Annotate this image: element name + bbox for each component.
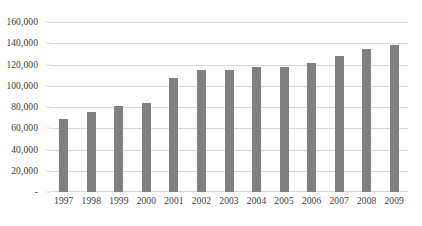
y-axis: -20,00040,00060,00080,000100,000120,0001… xyxy=(0,0,46,226)
x-axis-tick-label: 2003 xyxy=(219,196,238,206)
y-axis-tick-label: 100,000 xyxy=(6,81,38,91)
bar xyxy=(280,67,289,192)
bar xyxy=(225,70,234,192)
x-axis-tick-label: 2005 xyxy=(274,196,293,206)
x-axis-tick-label: 2002 xyxy=(192,196,211,206)
y-axis-tick-label: 40,000 xyxy=(11,145,38,155)
bar xyxy=(197,70,206,192)
x-axis-tick-label: 1999 xyxy=(109,196,128,206)
bar xyxy=(142,103,151,192)
y-axis-tick-label: 20,000 xyxy=(11,166,38,176)
y-axis-tick-label: 60,000 xyxy=(11,123,38,133)
x-axis-tick-label: 2001 xyxy=(164,196,183,206)
y-axis-tick-label: 80,000 xyxy=(11,102,38,112)
bar xyxy=(307,63,316,192)
x-axis-tick-label: 1998 xyxy=(82,196,101,206)
bars-group xyxy=(50,22,408,192)
bar xyxy=(390,45,399,192)
bar xyxy=(87,112,96,192)
x-axis-tick-label: 2007 xyxy=(329,196,348,206)
x-axis-tick-label: 2006 xyxy=(302,196,321,206)
x-axis-tick-label: 2008 xyxy=(357,196,376,206)
bar xyxy=(252,67,261,192)
x-axis-tick-label: 2004 xyxy=(247,196,266,206)
y-axis-tick-label: - xyxy=(35,187,38,197)
x-axis-tick-label: 2000 xyxy=(137,196,156,206)
y-axis-tick-label: 120,000 xyxy=(6,60,38,70)
plot-area xyxy=(50,22,408,192)
bar-chart: -20,00040,00060,00080,000100,000120,0001… xyxy=(0,0,422,226)
bar xyxy=(362,49,371,192)
bar xyxy=(114,106,123,192)
x-axis-tick-label: 1997 xyxy=(54,196,73,206)
bar xyxy=(169,78,178,192)
bar xyxy=(59,119,68,192)
y-axis-tick-label: 160,000 xyxy=(6,17,38,27)
y-axis-tick-label: 140,000 xyxy=(6,38,38,48)
x-axis-tick-label: 2009 xyxy=(385,196,404,206)
x-axis: 1997199819992000200120022003200420052006… xyxy=(50,196,408,212)
bar xyxy=(335,56,344,192)
